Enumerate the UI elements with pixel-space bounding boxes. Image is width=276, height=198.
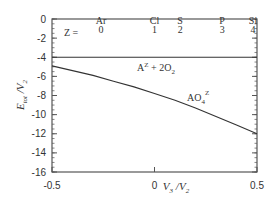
- y-tick-label: -12: [32, 128, 47, 139]
- z-value: 4: [251, 24, 256, 35]
- plot-border: [52, 19, 257, 172]
- z-value: 2: [178, 24, 183, 35]
- x-axis-label: V3 /V2: [163, 180, 190, 195]
- chart: 0-2-4-6-8-10-12-14-16 -0.500.5 V3 /V2Eto…: [0, 0, 276, 198]
- z-value: 1: [152, 24, 157, 35]
- y-axis-label: Etot /V2: [14, 79, 29, 111]
- y-axis-ticks: 0-2-4-6-8-10-12-14-16: [32, 14, 257, 178]
- y-tick-label: 0: [40, 14, 46, 25]
- line-label-a-2o2: AZ + 2O2: [137, 61, 175, 76]
- z-value: 3: [220, 24, 225, 35]
- z-value: 0: [99, 24, 104, 35]
- chart-svg: 0-2-4-6-8-10-12-14-16 -0.500.5 V3 /V2Eto…: [0, 0, 276, 198]
- y-tick-label: -2: [37, 33, 46, 44]
- annotations: V3 /V2Etot /V2Z =Ar0Cl1S2P3Si4AZ + 2O2AO…: [14, 15, 257, 195]
- plot-frame: [52, 19, 257, 172]
- x-tick-label: -0.5: [43, 180, 61, 191]
- line-label-ao4: AO4Z: [187, 89, 209, 106]
- y-tick-label: -8: [37, 90, 46, 101]
- y-tick-label: -6: [37, 71, 46, 82]
- x-tick-label: 0.5: [250, 180, 264, 191]
- x-axis-ticks: -0.500.5: [43, 167, 264, 191]
- y-tick-label: -14: [32, 147, 47, 158]
- y-tick-label: -16: [32, 167, 47, 178]
- series-line-1: [52, 66, 257, 134]
- z-label: Z =: [64, 27, 79, 38]
- y-tick-label: -4: [37, 52, 46, 63]
- y-tick-label: -10: [32, 109, 47, 120]
- x-tick-label: 0: [152, 180, 158, 191]
